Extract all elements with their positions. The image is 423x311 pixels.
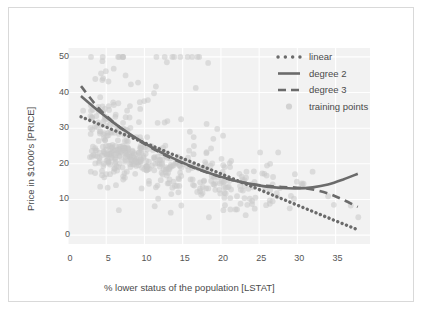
legend-item-label: training points — [309, 101, 368, 112]
y-tick-label: 30 — [59, 122, 69, 132]
x-axis-title: % lower status of the population [LSTAT] — [104, 282, 275, 293]
figure-frame: 05101520253035 01020304050 % lower statu… — [8, 7, 414, 302]
y-tick-label: 40 — [59, 87, 69, 97]
x-tick-label: 35 — [333, 253, 343, 263]
legend-item-label: linear — [309, 51, 332, 62]
y-tick-label: 50 — [59, 51, 69, 61]
x-tick-label: 20 — [218, 253, 228, 263]
y-tick-label: 0 — [65, 229, 70, 239]
x-tick-label: 15 — [180, 253, 190, 263]
x-tick-label: 0 — [68, 253, 73, 263]
x-tick-label: 30 — [294, 253, 304, 263]
y-tick-label: 10 — [59, 193, 69, 203]
y-tick-label: 20 — [59, 158, 69, 168]
y-axis-title: Price in $1000's [PRICE] — [25, 107, 36, 211]
legend-item-label: degree 2 — [309, 68, 347, 79]
x-tick-label: 25 — [256, 253, 266, 263]
x-tick-label: 10 — [141, 253, 151, 263]
chart-canvas — [0, 0, 423, 311]
legend-item-label: degree 3 — [309, 84, 347, 95]
x-tick-label: 5 — [106, 253, 111, 263]
